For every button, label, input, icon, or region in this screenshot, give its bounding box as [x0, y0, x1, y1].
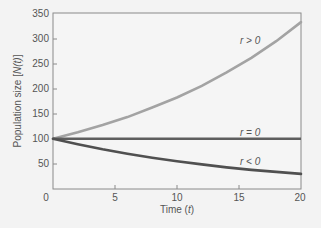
population-growth-chart: 50 100 150 200 250 300 350 0 5 10 15 20 … [0, 0, 321, 228]
y-tick-300: 300 [32, 33, 49, 44]
x-tick-15: 15 [233, 192, 245, 203]
curve-label-r-negative: r < 0 [240, 156, 261, 167]
x-tick-5: 5 [112, 192, 118, 203]
y-axis-label: Population size [N(t)] [12, 54, 23, 147]
x-tick-0: 0 [43, 192, 49, 203]
y-tick-200: 200 [32, 83, 49, 94]
y-tick-100: 100 [32, 133, 49, 144]
y-tick-50: 50 [38, 158, 50, 169]
y-tick-250: 250 [32, 58, 49, 69]
x-axis-label: Time (t) [160, 204, 194, 215]
curve-label-r-zero: r = 0 [240, 127, 261, 138]
x-tick-20: 20 [294, 192, 306, 203]
curve-label-r-positive: r > 0 [240, 35, 261, 46]
x-tick-10: 10 [171, 192, 183, 203]
y-tick-150: 150 [32, 108, 49, 119]
y-tick-350: 350 [32, 8, 49, 19]
